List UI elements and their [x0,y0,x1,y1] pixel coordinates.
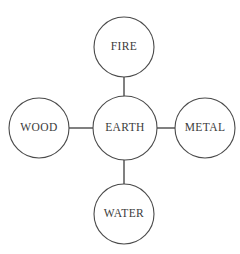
node-fire-label: FIRE [111,40,138,52]
node-wood-label: WOOD [20,121,57,133]
node-metal[interactable]: METAL [175,98,235,158]
node-fire[interactable]: FIRE [94,17,154,77]
node-earth-label: EARTH [105,121,145,133]
node-water-label: WATER [104,207,144,219]
node-earth[interactable]: EARTH [93,96,157,160]
five-elements-diagram: FIRE WOOD EARTH METAL WATER [0,0,240,254]
node-metal-label: METAL [185,121,226,133]
diagram-canvas: FIRE WOOD EARTH METAL WATER [0,0,240,254]
node-water[interactable]: WATER [94,184,154,244]
node-wood[interactable]: WOOD [9,98,69,158]
